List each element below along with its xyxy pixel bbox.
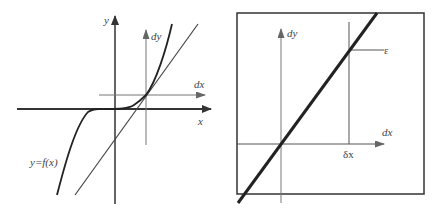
y-axis-label: y	[103, 14, 109, 26]
left-panel: y x dy dx y=f(x)	[17, 14, 211, 204]
delta-x-label: δx	[343, 148, 354, 160]
zoomed-curve-line	[238, 13, 377, 203]
zoom-dy-label: dy	[287, 27, 298, 39]
differential-diagram: y x dy dx y=f(x) dy dx δx ε	[0, 0, 439, 214]
zoom-dx-label: dx	[382, 126, 393, 138]
epsilon-label: ε	[384, 44, 389, 56]
dx-axis-label: dx	[194, 78, 205, 90]
right-panel: dy dx δx ε	[237, 13, 424, 203]
curve-label: y=f(x)	[29, 156, 58, 169]
x-axis-label: x	[197, 115, 203, 127]
dy-axis-label: dy	[151, 30, 162, 42]
